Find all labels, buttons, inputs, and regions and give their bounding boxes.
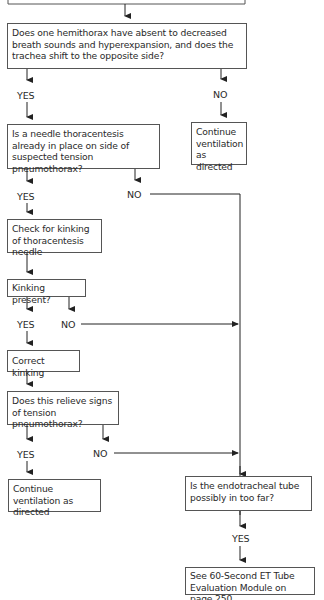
question-kinking-present: Kinking present? xyxy=(7,279,86,297)
question-relieve-signs: Does this relieve signs of tension pneum… xyxy=(7,391,119,425)
continue-ventilation-box: Continue ventilation as directed xyxy=(191,122,247,165)
yes-label: YES xyxy=(17,449,35,460)
question-needle-in-place: Is a needle thoracentesis already in pla… xyxy=(7,124,160,169)
question-et-tube-too-far: Is the endotracheal tube possibly in too… xyxy=(185,476,312,511)
no-label: NO xyxy=(213,89,227,100)
no-label: NO xyxy=(61,319,75,330)
question-hemithorax: Does one hemithorax have absent to decre… xyxy=(7,23,247,69)
yes-label: YES xyxy=(17,191,35,202)
yes-label: YES xyxy=(17,319,35,330)
continue-ventilation-box-2: Continue ventilation as directed xyxy=(8,479,101,512)
check-kinking-box: Check for kinking of thoracentesis needl… xyxy=(7,219,102,253)
yes-label: YES xyxy=(232,533,250,544)
see-module-box: See 60-Second ET Tube Evaluation Module … xyxy=(185,567,315,595)
yes-label: YES xyxy=(17,90,35,101)
no-label: NO xyxy=(93,448,107,459)
no-label: NO xyxy=(127,189,141,200)
correct-kinking-box: Correct kinking xyxy=(7,350,80,372)
